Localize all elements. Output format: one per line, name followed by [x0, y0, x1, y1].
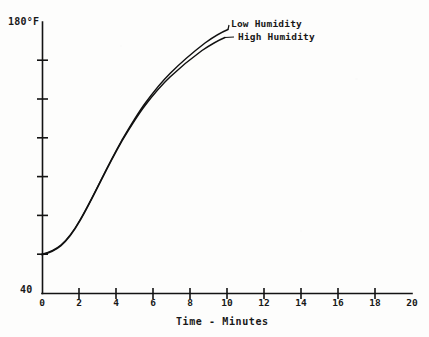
y-axis-max-label: 180°F	[8, 17, 39, 27]
x-tick-label-2: 2	[76, 297, 82, 308]
x-tick-label-14: 14	[295, 297, 306, 308]
x-tick-label-6: 6	[150, 297, 156, 308]
chart-container: 180°F 40 Low Humidity High Humidity 0 2 …	[0, 0, 429, 337]
series-line-low-humidity	[42, 30, 228, 255]
x-tick-label-10: 10	[221, 297, 232, 308]
annotation-leader-high	[225, 37, 234, 38]
x-axis-title: Time - Minutes	[176, 317, 269, 327]
x-tick-label-8: 8	[187, 297, 193, 308]
legend-label-high-humidity: High Humidity	[238, 32, 315, 42]
x-tick-label-18: 18	[369, 297, 380, 308]
x-tick-label-0: 0	[39, 297, 45, 308]
chart-plot-area	[0, 0, 429, 337]
x-tick-label-20: 20	[406, 297, 417, 308]
x-tick-label-4: 4	[113, 297, 119, 308]
legend-label-low-humidity: Low Humidity	[231, 19, 302, 29]
x-tick-label-16: 16	[332, 297, 343, 308]
x-tick-label-12: 12	[258, 297, 269, 308]
annotation-leader-low	[228, 25, 229, 30]
series-line-high-humidity	[42, 38, 225, 255]
y-axis-min-label: 40	[20, 285, 32, 295]
